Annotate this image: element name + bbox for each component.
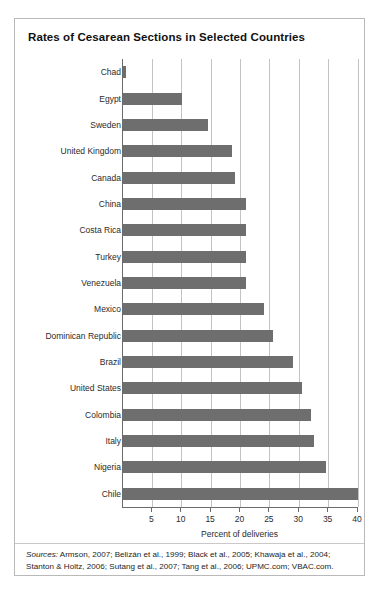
bar xyxy=(123,198,246,210)
y-tick-label: Mexico xyxy=(17,304,121,314)
bar-series xyxy=(123,59,358,507)
y-tick-label: Nigeria xyxy=(17,462,121,472)
x-tick-5 xyxy=(151,507,152,512)
x-tick-20 xyxy=(239,507,240,512)
bar xyxy=(123,93,182,105)
bar xyxy=(123,251,246,263)
chart-title: Rates of Cesarean Sections in Selected C… xyxy=(28,31,305,43)
bar xyxy=(123,66,126,78)
bar xyxy=(123,330,273,342)
bar xyxy=(123,119,208,131)
bar xyxy=(123,461,326,473)
bar xyxy=(123,382,302,394)
y-tick-label: Italy xyxy=(17,436,121,446)
x-tick-label: 15 xyxy=(195,514,225,525)
y-tick-label: Chad xyxy=(17,67,121,77)
x-axis-title: Percent of deliveries xyxy=(122,529,357,539)
x-tick-40 xyxy=(357,507,358,512)
y-tick-label: Egypt xyxy=(17,94,121,104)
x-axis-tick-labels: 510152025303540 xyxy=(122,514,357,526)
y-tick-label: Sweden xyxy=(17,120,121,130)
x-tick-label: 40 xyxy=(342,514,372,525)
bar xyxy=(123,409,311,421)
x-tick-15 xyxy=(210,507,211,512)
sources-note: Sources: Armson, 2007; Belizán et al., 1… xyxy=(26,549,356,572)
x-tick-label: 25 xyxy=(254,514,284,525)
y-tick-label: Brazil xyxy=(17,357,121,367)
y-tick-label: Turkey xyxy=(17,252,121,262)
bar xyxy=(123,435,314,447)
x-tick-label: 20 xyxy=(225,514,255,525)
y-axis-labels: ChadEgyptSwedenUnited KingdomCanadaChina… xyxy=(15,59,121,507)
x-tick-10 xyxy=(180,507,181,512)
y-tick-label: Chile xyxy=(17,489,121,499)
y-tick-label: Canada xyxy=(17,173,121,183)
x-tick-label: 5 xyxy=(136,514,166,525)
y-tick-label: Costa Rica xyxy=(17,225,121,235)
y-tick-label: United Kingdom xyxy=(17,146,121,156)
sources-label: Sources: xyxy=(26,550,58,559)
chart-figure: Rates of Cesarean Sections in Selected C… xyxy=(14,18,365,576)
footer-divider xyxy=(15,543,364,544)
y-tick-label: Dominican Republic xyxy=(17,331,121,341)
x-tick-label: 35 xyxy=(313,514,343,525)
plot-area xyxy=(122,59,358,507)
x-tick-35 xyxy=(327,507,328,512)
sources-text: Armson, 2007; Belizán et al., 1999; Blac… xyxy=(26,550,334,571)
bar xyxy=(123,277,246,289)
plot-wrapper: ChadEgyptSwedenUnited KingdomCanadaChina… xyxy=(15,59,366,524)
x-tick-label: 30 xyxy=(283,514,313,525)
y-tick-label: Colombia xyxy=(17,410,121,420)
y-tick-label: Venezuela xyxy=(17,278,121,288)
x-tick-25 xyxy=(268,507,269,512)
bar xyxy=(123,303,264,315)
bar xyxy=(123,356,293,368)
bar xyxy=(123,224,246,236)
bar xyxy=(123,488,358,500)
x-axis-ticks xyxy=(122,507,357,513)
bar xyxy=(123,172,235,184)
y-tick-label: China xyxy=(17,199,121,209)
bar xyxy=(123,145,232,157)
x-tick-30 xyxy=(298,507,299,512)
y-tick-label: United States xyxy=(17,383,121,393)
x-tick-label: 10 xyxy=(166,514,196,525)
